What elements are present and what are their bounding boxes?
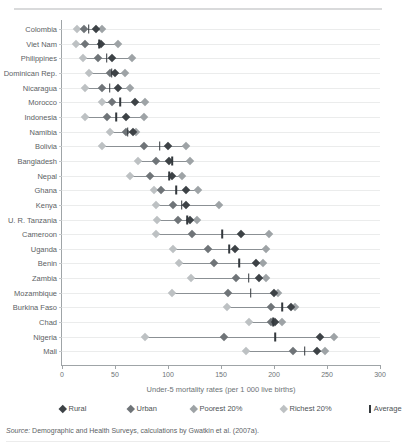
marker-urban [173,215,181,223]
y-tick [59,146,62,147]
range-connector [85,88,130,89]
y-tick [59,29,62,30]
y-axis-label: U. R. Tanzania [8,215,57,224]
marker-average [248,274,250,283]
legend-swatch-poorest-icon [190,405,198,413]
y-axis-label: Benin [38,259,57,268]
marker-urban [108,98,116,106]
marker-urban [188,230,196,238]
marker-urban [102,113,110,121]
marker-richest [153,215,161,223]
marker-richest [169,245,177,253]
marker-urban [156,186,164,194]
y-tick [59,176,62,177]
marker-urban [81,39,89,47]
y-axis-line [61,20,62,365]
marker-rural [231,245,239,253]
x-tick [62,365,63,369]
y-tick [59,307,62,308]
range-connector [179,263,264,264]
y-axis-label: Chad [39,318,57,327]
x-tick [221,365,222,369]
y-tick [59,337,62,338]
marker-poorest [140,98,148,106]
marker-poorest [186,157,194,165]
marker-urban [209,259,217,267]
figure-title-clipped [14,0,382,7]
marker-poorest [114,39,122,47]
legend-item-urban[interactable]: Urban [128,404,157,413]
y-tick [59,73,62,74]
marker-poorest [178,171,186,179]
y-axis-label: Nepal [37,171,57,180]
marker-urban [224,289,232,297]
row-gridline [62,322,380,323]
legend-item-richest[interactable]: Richest 20% [281,404,332,413]
marker-poorest [126,83,134,91]
legend-item-rural[interactable]: Rural [60,404,86,413]
marker-average [168,171,170,180]
marker-average [176,186,178,195]
row-gridline [62,351,380,352]
marker-rural [114,83,122,91]
range-connector [173,249,265,250]
marker-average [238,259,240,268]
marker-average [98,39,100,48]
y-axis-label: Colombia [25,25,57,34]
marker-average [127,127,129,136]
y-axis-label: Dominican Rep. [4,69,57,78]
y-axis-label: Cameroon [22,230,57,239]
marker-average [250,288,252,297]
y-tick [59,132,62,133]
marker-average [106,54,108,63]
legend-item-average[interactable]: Average [369,404,402,413]
y-axis-label: Viet Nam [26,39,57,48]
y-axis-label: Burkina Faso [13,303,57,312]
marker-average [186,215,188,224]
legend-label: Richest 20% [290,404,332,413]
marker-poorest [128,54,136,62]
y-axis-label: Kenya [36,200,57,209]
marker-poorest [182,142,190,150]
marker-rural [315,332,323,340]
y-tick [59,205,62,206]
x-tick-label: 100 [162,371,174,378]
chart-legend: RuralUrbanPoorest 20%Richest 20%Average [62,404,380,418]
marker-poorest [259,259,267,267]
legend-label: Poorest 20% [200,404,243,413]
x-tick-label: 300 [374,371,386,378]
marker-richest [174,259,182,267]
marker-poorest [120,69,128,77]
marker-poorest [261,245,269,253]
marker-average [115,112,117,121]
marker-urban [152,157,160,165]
marker-richest [84,69,92,77]
x-tick [274,365,275,369]
marker-average [88,25,90,34]
marker-poorest [321,347,329,355]
marker-richest [242,347,250,355]
marker-poorest [264,230,272,238]
marker-poorest [278,318,286,326]
x-tick-label: 50 [111,371,119,378]
row-gridline [62,307,380,308]
marker-richest [105,127,113,135]
range-connector [227,307,295,308]
y-axis-label: Indonesia [24,112,57,121]
marker-richest [152,201,160,209]
marker-average [229,244,231,253]
marker-richest [168,289,176,297]
x-tick-label: 0 [60,371,64,378]
marker-urban [94,54,102,62]
x-tick [380,365,381,369]
marker-average [109,83,111,92]
marker-poorest [215,201,223,209]
marker-urban [204,245,212,253]
marker-poorest [139,113,147,121]
y-tick [59,351,62,352]
y-tick [59,263,62,264]
marker-poorest [193,186,201,194]
legend-item-poorest[interactable]: Poorest 20% [191,404,242,413]
source-text: Demographic and Health Surveys, calculat… [30,427,259,434]
top-divider [14,8,382,10]
